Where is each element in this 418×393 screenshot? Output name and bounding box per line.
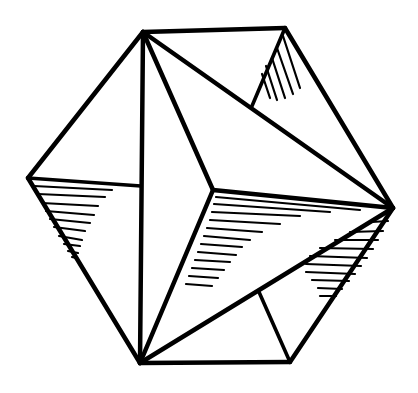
hatch-line	[34, 186, 112, 190]
hatch-line	[195, 260, 230, 262]
edge-FA	[28, 32, 143, 178]
edge-AB	[143, 28, 285, 32]
hatch-line	[210, 220, 280, 224]
polyhedron-svg	[0, 0, 418, 393]
hatch-line	[283, 36, 300, 88]
edge-AE	[140, 32, 143, 363]
edge-DE	[140, 362, 290, 363]
edge-BC	[285, 28, 393, 208]
hatch-line	[198, 252, 236, 255]
hatch-line	[192, 268, 224, 270]
hatch-line	[207, 228, 262, 232]
hatch-line	[189, 276, 218, 278]
edge-DJ	[259, 292, 290, 362]
hatch-line	[277, 48, 293, 94]
hatch-line	[46, 211, 94, 215]
hatch-line	[186, 284, 212, 286]
edge-EC	[140, 208, 393, 363]
hatch-line	[38, 194, 105, 197]
edge-FH	[28, 178, 141, 186]
polyhedron-figure	[0, 0, 418, 393]
hatch-line	[212, 212, 300, 216]
hatch-line	[42, 203, 98, 206]
hatch-line	[204, 236, 250, 240]
edge-CD	[290, 208, 393, 362]
hatch-line	[201, 244, 242, 247]
